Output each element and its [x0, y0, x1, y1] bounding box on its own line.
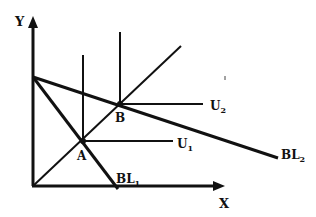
y-axis-label: Y [14, 14, 25, 29]
u1-label: U1 [177, 137, 193, 153]
point-b-label: B [115, 111, 125, 125]
point-b-marker [117, 101, 123, 107]
budget-line-bl1 [33, 77, 118, 189]
diagram: Y X A B U1 U2 BL1 BL2 [0, 0, 316, 217]
point-a-marker [80, 138, 86, 144]
x-axis-arrow-icon [213, 181, 225, 191]
point-a-label: A [76, 149, 87, 163]
u2-label: U2 [210, 99, 226, 115]
bl2-label: BL2 [281, 148, 305, 164]
x-axis-label: X [219, 196, 230, 211]
budget-line-bl2 [33, 77, 278, 158]
bl1-label: BL1 [116, 172, 140, 188]
consumption-ray [33, 46, 181, 186]
diagram-canvas: Y X A B U1 U2 BL1 BL2 [0, 0, 316, 217]
y-axis-arrow-icon [28, 16, 38, 28]
y-axis [28, 16, 38, 186]
